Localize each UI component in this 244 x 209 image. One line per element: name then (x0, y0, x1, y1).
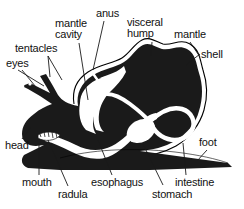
label-stomach: stomach (152, 189, 192, 201)
label-mantle: mantle (174, 29, 206, 41)
leader-line-anus (93, 21, 104, 70)
label-shell: shell (201, 49, 223, 61)
label-esophagus: esophagus (91, 177, 143, 189)
label-mantle-cavity: mantle cavity (55, 18, 87, 40)
label-intestine: intestine (175, 177, 214, 189)
label-tentacles: tentacles (15, 43, 57, 55)
label-foot: foot (199, 137, 217, 149)
label-head: head (5, 140, 29, 152)
label-anus: anus (96, 8, 119, 20)
label-mouth: mouth (22, 177, 52, 189)
label-eyes: eyes (6, 58, 28, 70)
anatomy-diagram-page: tentacleseyesmantle cavityanusvisceral h… (0, 0, 244, 209)
label-visceral-hump: visceral hump (127, 17, 163, 39)
label-radula: radula (58, 189, 87, 201)
snail-body-silhouette (22, 44, 232, 170)
